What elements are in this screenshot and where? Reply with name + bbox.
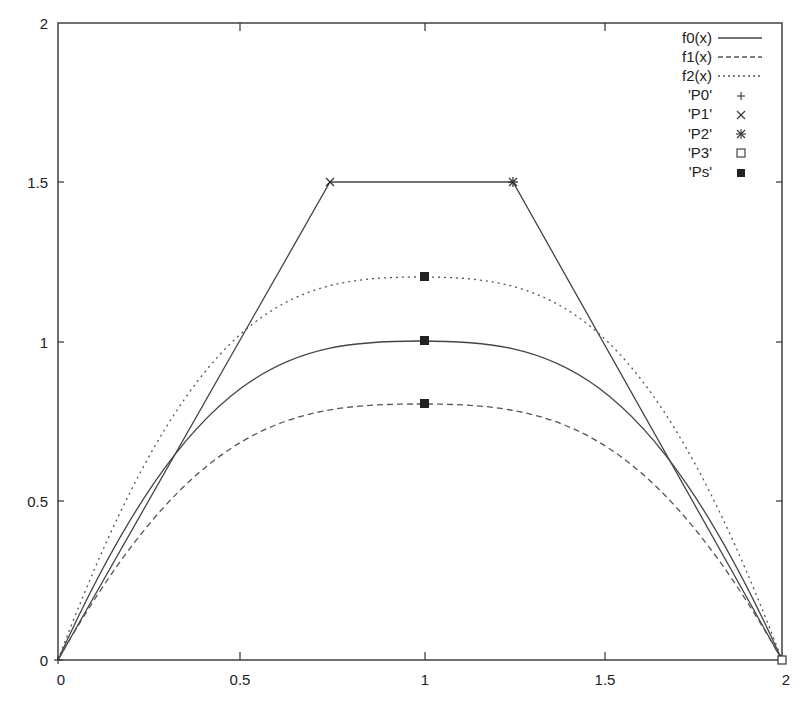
x-tick-label: 0 [57, 671, 65, 688]
legend-cross-icon [737, 111, 745, 119]
legend: f0(x) f1(x) f2(x) 'P0' 'P1' 'P2' 'P3' 'P… [682, 29, 762, 180]
marker-p0-plus [54, 656, 62, 664]
marker-ps-filled-square [420, 399, 429, 408]
legend-label: 'P0' [688, 86, 712, 103]
x-tick-label: 2 [782, 671, 790, 688]
marker-ps-filled-square [420, 272, 429, 281]
legend-label: 'P3' [688, 144, 712, 161]
x-tick-label: 0.5 [230, 671, 251, 688]
x-tick-label: 1.5 [595, 671, 616, 688]
legend-label: f2(x) [682, 67, 712, 84]
legend-open-square-icon [737, 149, 745, 157]
x-tick-label: 1 [421, 671, 429, 688]
y-tick-label: 1.5 [27, 174, 48, 191]
y-tick-label: 0.5 [27, 493, 48, 510]
series-f1-curve [58, 404, 782, 660]
x-tick-labels: 0 0.5 1 1.5 2 [57, 671, 790, 688]
legend-label: 'Ps' [689, 163, 712, 180]
y-tick-label: 2 [40, 15, 48, 32]
legend-label: 'P1' [688, 105, 712, 122]
legend-label: f0(x) [682, 29, 712, 46]
series-f0-curve [58, 341, 782, 660]
marker-ps-filled-square [420, 336, 429, 345]
legend-plus-icon [737, 92, 745, 100]
control-polygon [58, 182, 782, 660]
y-tick-label: 1 [40, 334, 48, 351]
legend-label: f1(x) [682, 48, 712, 65]
legend-filled-square-icon [737, 169, 745, 177]
y-tick-labels: 2 1.5 1 0.5 0 [27, 15, 48, 669]
legend-star-icon [736, 129, 746, 139]
y-tick-label: 0 [40, 652, 48, 669]
marker-p3-open-square [778, 656, 786, 664]
legend-label: 'P2' [688, 125, 712, 142]
marker-p2-star [508, 177, 518, 187]
bezier-curves-chart: 2 1.5 1 0.5 0 0 0.5 1 1.5 2 [0, 0, 810, 706]
